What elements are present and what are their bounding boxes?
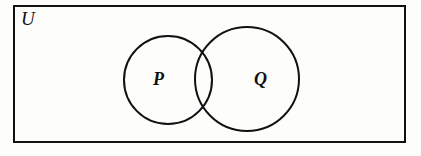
set-q-label: Q	[254, 70, 267, 88]
set-p-circle	[124, 36, 212, 124]
venn-diagram-canvas	[0, 0, 421, 156]
set-p-label: P	[153, 70, 164, 88]
universal-set-label: U	[21, 9, 35, 28]
set-q-circle	[195, 27, 299, 131]
universal-set-rectangle	[14, 6, 405, 142]
venn-diagram-figure: U P Q	[0, 0, 421, 156]
